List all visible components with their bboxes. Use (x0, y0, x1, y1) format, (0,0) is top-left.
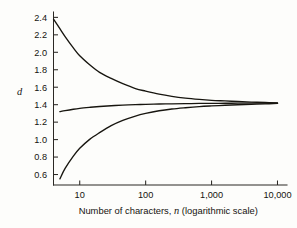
y-axis-title: d (17, 86, 23, 97)
y-tick-label: 1.8 (34, 65, 47, 75)
x-axis-title: Number of characters, n (logarithmic sca… (79, 205, 258, 216)
x-tick-label: 10 (75, 190, 85, 200)
y-tick-label: 2.2 (34, 30, 47, 40)
y-tick-label: 0.8 (34, 152, 47, 162)
y-axis-tick-labels: 0.60.81.01.21.41.61.82.02.22.4 (34, 13, 47, 180)
x-axis-tick-labels: 101001,00010,000 (75, 190, 292, 200)
chart-plot: 0.60.81.01.21.41.61.82.02.22.4 101001,00… (0, 0, 297, 228)
x-tick-label: 100 (138, 190, 153, 200)
y-tick-label: 2.4 (34, 13, 47, 23)
x-axis-title-plain: Number of characters, (79, 205, 172, 216)
y-tick-label: 1.2 (34, 117, 47, 127)
x-tick-label: 10,000 (263, 190, 291, 200)
y-tick-label: 1.6 (34, 83, 47, 93)
y-tick-label: 1.0 (34, 135, 47, 145)
y-tick-label: 2.0 (34, 48, 47, 58)
x-tick-label: 1,000 (200, 190, 223, 200)
y-tick-label: 0.6 (34, 170, 47, 180)
x-axis-title-variable: n (174, 205, 179, 216)
x-axis-title-tail: (logarithmic scale) (182, 205, 258, 216)
upper-bound-curve (54, 19, 278, 103)
lower-bound-curve (60, 103, 278, 178)
chart-figure: 0.60.81.01.21.41.61.82.02.22.4 101001,00… (0, 0, 297, 228)
y-tick-label: 1.4 (34, 100, 47, 110)
